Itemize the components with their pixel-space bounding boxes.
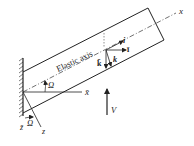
x-bar-label: x̄ <box>84 87 90 97</box>
k-bar-vector-label: k̄ <box>97 59 102 68</box>
omega-bottom-label: Ω <box>27 118 33 128</box>
elastic-axis-line <box>23 13 176 92</box>
elastic-axis-label: Elastic axis <box>55 48 95 74</box>
beam-outline <box>23 8 164 113</box>
beam-diagram: x x̄ z z̄ Ω Ω Elastic axis i ī k k̄ V <box>0 0 194 146</box>
i-bar-vector-label: ī <box>126 45 130 54</box>
force-v-label: V <box>111 105 118 115</box>
fixed-wall <box>19 58 23 117</box>
z-axis-label: z <box>41 127 46 136</box>
omega-arc-top <box>45 81 46 92</box>
i-vector-label: i <box>123 36 126 45</box>
k-vector-label: k <box>113 55 117 64</box>
x-axis-label: x <box>178 6 183 16</box>
z-bar-label: z̄ <box>19 123 24 132</box>
omega-top-label: Ω <box>48 80 54 90</box>
